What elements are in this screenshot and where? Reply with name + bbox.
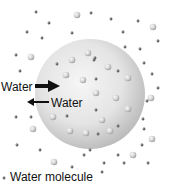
water-molecule	[89, 149, 92, 152]
solute-particle	[149, 136, 156, 143]
solute-particle	[125, 106, 132, 113]
solute-particle	[28, 54, 35, 61]
water-molecule	[137, 20, 140, 23]
water-molecule	[146, 100, 149, 103]
water-molecule	[157, 40, 160, 43]
water-molecule	[147, 162, 150, 165]
water-molecule	[110, 18, 113, 21]
water-molecule	[95, 109, 98, 112]
water-molecule	[15, 54, 18, 57]
water-molecule	[143, 62, 146, 65]
label-water-in: Water	[1, 80, 33, 94]
solute-particle	[85, 50, 92, 57]
solute-particle	[99, 117, 106, 124]
water-molecule	[71, 32, 74, 35]
water-molecule	[151, 73, 154, 76]
solute-particle	[125, 75, 132, 82]
solute-particle	[113, 95, 120, 102]
label-water-out: Water	[51, 96, 83, 110]
water-molecule	[35, 11, 38, 14]
solute-particle	[30, 126, 37, 133]
water-molecule	[141, 144, 144, 147]
water-molecule	[117, 154, 120, 157]
water-molecule	[15, 116, 18, 119]
water-molecule	[103, 162, 106, 165]
water-molecule	[90, 12, 93, 15]
water-molecule	[143, 128, 146, 131]
water-molecule	[94, 57, 97, 60]
solute-particle	[50, 114, 57, 121]
solute-particle	[93, 90, 100, 97]
water-molecule	[41, 37, 44, 40]
water-molecule	[71, 166, 74, 169]
water-molecule	[142, 118, 145, 121]
water-molecule	[124, 46, 127, 49]
water-molecule	[123, 162, 126, 165]
solute-particle	[105, 64, 112, 71]
water-molecule	[48, 22, 51, 25]
water-molecule	[95, 78, 98, 81]
solute-particle	[83, 130, 90, 137]
solute-particle	[150, 24, 157, 31]
solute-particle	[74, 12, 81, 19]
osmosis-diagram: Water Water Water molecule	[0, 0, 171, 184]
solute-particle	[67, 128, 74, 135]
water-molecule	[56, 63, 59, 66]
legend-water-molecule-icon	[3, 177, 6, 180]
water-molecule	[157, 87, 160, 90]
solute-particle	[80, 77, 87, 84]
water-molecule	[16, 144, 19, 147]
water-molecule	[66, 115, 69, 118]
water-molecule	[101, 171, 104, 174]
water-molecule	[122, 31, 125, 34]
water-molecule	[30, 116, 33, 119]
solute-particle	[63, 72, 70, 79]
legend-label: Water molecule	[10, 170, 93, 184]
solute-particle	[148, 95, 155, 102]
water-molecule	[97, 133, 100, 136]
solute-particle	[107, 128, 114, 135]
water-molecule	[117, 125, 120, 128]
solute-particle	[69, 57, 76, 64]
water-molecule	[83, 154, 86, 157]
solute-particle	[51, 159, 58, 166]
water-molecule	[39, 149, 42, 152]
solute-particle	[130, 152, 137, 159]
water-molecule	[139, 48, 142, 51]
water-molecule	[117, 70, 120, 73]
water-molecule	[19, 70, 22, 73]
water-molecule	[26, 31, 29, 34]
